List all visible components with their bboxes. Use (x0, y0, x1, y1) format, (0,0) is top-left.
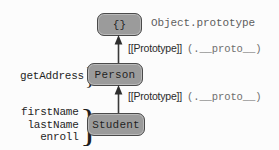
node-student[interactable]: Student (87, 113, 145, 136)
arrow-up-icon (113, 35, 124, 64)
arrow-up-icon (113, 85, 124, 114)
node-object-prototype[interactable]: {} (97, 13, 142, 36)
edge-label-person-to-object-prototype: [[Prototype]] (.__proto__) (128, 42, 261, 55)
edge-prototype-tag: [[Prototype]] (128, 42, 182, 54)
person-members-list: getAddress (20, 70, 84, 83)
person-members-group: getAddress } (20, 66, 96, 86)
edge-proto-property: (.__proto__) (187, 43, 261, 55)
edge-proto-property: (.__proto__) (187, 91, 261, 103)
arrow-student-to-person (113, 85, 124, 114)
prototype-chain-diagram: {} Object.prototype [[Prototype]] (.__pr… (0, 0, 279, 150)
edge-prototype-tag: [[Prototype]] (128, 90, 182, 102)
object-prototype-caption: Object.prototype (151, 17, 255, 29)
node-person-label: Person (95, 69, 136, 81)
arrow-person-to-object-prototype (113, 35, 124, 64)
edge-label-student-to-person: [[Prototype]] (.__proto__) (128, 90, 261, 103)
node-object-prototype-label: {} (113, 19, 127, 31)
student-members-list: firstName lastName enroll (21, 106, 79, 144)
node-student-label: Student (92, 119, 140, 131)
node-person[interactable]: Person (87, 63, 143, 86)
